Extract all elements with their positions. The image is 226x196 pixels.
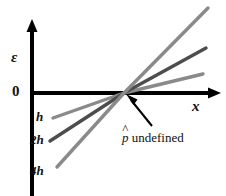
x-axis-arrowhead [208, 88, 221, 99]
circumflex-accent: ^ [122, 122, 129, 135]
error-convergence-diagram: ε 0 x h 2h 4h ^p undefined [0, 0, 226, 196]
curve-label-2h: 2h [30, 133, 44, 146]
p-hat-symbol: ^p [122, 131, 129, 144]
y-axis-label: ε [11, 50, 17, 65]
x-axis-label: x [192, 99, 200, 114]
curve-label-4h: 4h [30, 164, 44, 177]
annotation-arrowhead [126, 94, 138, 105]
origin-zero-label: 0 [12, 84, 20, 99]
undefined-text: undefined [129, 130, 184, 145]
undefined-annotation: ^p undefined [122, 131, 184, 144]
curve-label-h: h [36, 110, 43, 123]
y-axis-arrowhead [27, 19, 38, 32]
